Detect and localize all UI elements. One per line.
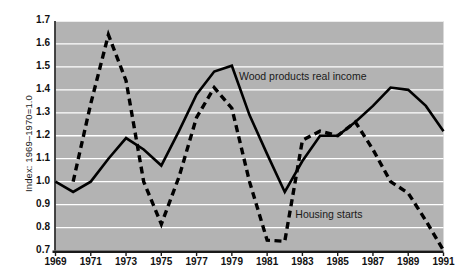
x-tick-label: 1981 xyxy=(250,256,284,267)
x-tick-label: 1979 xyxy=(215,256,249,267)
x-tick-label: 1969 xyxy=(39,256,73,267)
x-tick-label: 1971 xyxy=(74,256,108,267)
x-tick-label: 1989 xyxy=(391,256,425,267)
y-tick-label: 0.7 xyxy=(28,244,50,255)
x-tick-label: 1973 xyxy=(109,256,143,267)
x-tick-label: 1975 xyxy=(144,256,178,267)
x-tick-label: 1991 xyxy=(427,256,459,267)
y-tick-label: 1.2 xyxy=(28,129,50,140)
x-tick-label: 1977 xyxy=(180,256,214,267)
y-tick-label: 1.3 xyxy=(28,106,50,117)
y-axis-tick-labels: 1.71.61.51.41.31.21.11.00.90.80.7 xyxy=(26,0,50,276)
y-tick-label: 1.1 xyxy=(28,152,50,163)
series-label-housing-starts: Housing starts xyxy=(295,208,362,220)
y-tick-label: 0.9 xyxy=(28,198,50,209)
y-tick-label: 0.8 xyxy=(28,221,50,232)
y-tick-label: 1.0 xyxy=(28,175,50,186)
y-tick-label: 1.4 xyxy=(28,83,50,94)
series-label-wood-products: Wood products real income xyxy=(239,70,367,82)
y-tick-label: 1.6 xyxy=(28,37,50,48)
x-tick-label: 1987 xyxy=(356,256,390,267)
y-tick-label: 1.5 xyxy=(28,60,50,71)
x-tick-label: 1985 xyxy=(321,256,355,267)
y-tick-label: 1.7 xyxy=(28,14,50,25)
x-tick-label: 1983 xyxy=(285,256,319,267)
